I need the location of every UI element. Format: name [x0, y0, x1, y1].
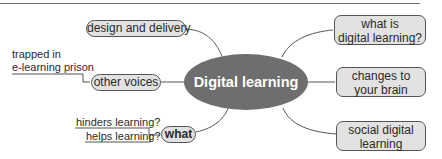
node-label-line2: learning	[337, 137, 425, 151]
node-label-line1: social digital	[337, 123, 425, 137]
node-label: what	[165, 127, 192, 141]
node-label: design and delivery	[87, 21, 190, 35]
leaf-label: hinders learning?	[76, 116, 160, 128]
node-what-is-digital-learning[interactable]: what is digital learning?	[334, 15, 426, 45]
node-label: other voices	[94, 75, 159, 89]
node-label-line2: your brain	[337, 83, 425, 97]
node-label-line2: digital learning?	[335, 31, 425, 45]
leaf-helps-learning[interactable]: helps learning?	[86, 130, 161, 143]
node-design-and-delivery[interactable]: design and delivery	[86, 20, 186, 37]
center-node-digital-learning[interactable]: Digital learning	[184, 54, 308, 110]
leaf-hinders-learning[interactable]: hinders learning?	[76, 116, 160, 129]
node-what[interactable]: what	[161, 126, 196, 143]
leaf-line: trapped in	[12, 48, 94, 61]
node-label-line1: what is	[335, 17, 425, 31]
node-changes-to-your-brain[interactable]: changes to your brain	[336, 67, 426, 97]
leaf-line: e-learning prison	[12, 61, 94, 74]
node-label-line1: changes to	[337, 69, 425, 83]
leaf-trapped-in-e-learning-prison[interactable]: trapped in e-learning prison	[12, 48, 94, 74]
node-other-voices[interactable]: other voices	[91, 74, 161, 91]
leaf-label: helps learning?	[86, 130, 161, 142]
center-label: Digital learning	[194, 74, 299, 90]
node-social-digital-learning[interactable]: social digital learning	[336, 121, 426, 151]
